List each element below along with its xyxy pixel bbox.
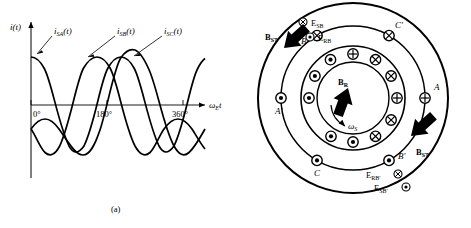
label-stator-C-prime: C′ [395, 20, 404, 30]
rotor-bar [386, 71, 396, 81]
rotor-bar [348, 137, 358, 147]
x-axis-label: ωEt [209, 100, 222, 111]
series-label-isa: iSA(t) [54, 26, 72, 37]
label-stator-A: A [433, 82, 440, 92]
label-stator-A-prime: A′ [274, 106, 283, 116]
rotor-bar [304, 93, 314, 103]
rotor-bar [370, 55, 380, 65]
series-label-isc: iSC(t) [164, 26, 182, 37]
waveform-panel: 0° 180° 360° i(t) ωEt iSA(t) iSB(t) iSC(… [0, 0, 235, 228]
curve-isb [31, 57, 205, 155]
label-stator-C: C [314, 168, 321, 178]
rotor-bar [310, 71, 320, 81]
rotor-bar [325, 55, 335, 65]
label-B-ST-top: BST [265, 32, 278, 43]
svg-text:ωEt: ωEt [209, 100, 222, 111]
x-axis-arrow [199, 102, 205, 107]
caption-a: (a) [111, 204, 120, 214]
rotor-bar [386, 115, 396, 125]
xtick-label-0: 0° [33, 109, 41, 119]
stator-winding-A [420, 93, 430, 103]
machine-diagram: C′ A B′ C A′ B ESB ERB ERB′ ESB′ BST [235, 0, 471, 200]
y-axis-arrow [28, 22, 33, 28]
curve-isa [31, 57, 205, 152]
machine-cross-section-panel: C′ A B′ C A′ B ESB ERB ERB′ ESB′ BST [235, 0, 471, 228]
rotor-bar [326, 131, 336, 141]
rotor-bar [392, 93, 402, 103]
rotor-bar [370, 131, 380, 141]
y-axis-label: i(t) [10, 22, 21, 32]
series-label-isb: iSB(t) [117, 26, 135, 37]
leader-isc [134, 36, 162, 56]
stator-winding-B-prime [384, 155, 394, 165]
label-stator-B-prime: B′ [398, 151, 406, 161]
stator-winding-C [312, 155, 322, 165]
leader-isb [88, 36, 115, 57]
leader-isa [37, 36, 52, 54]
rotor-bar [348, 49, 358, 59]
curve-isc [31, 50, 205, 155]
current-waveform-chart: 0° 180° 360° i(t) ωEt iSA(t) iSB(t) iSC(… [0, 0, 235, 200]
stator-winding-A-prime [276, 93, 286, 103]
stator-winding-C-prime [384, 30, 394, 40]
